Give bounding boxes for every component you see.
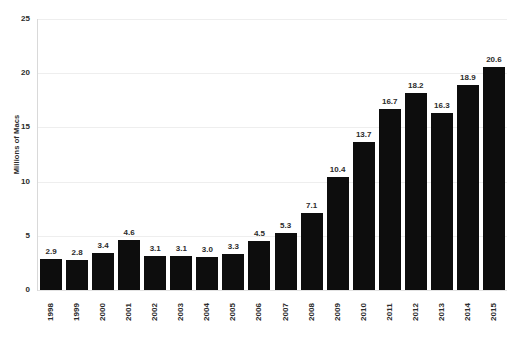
bar[interactable] xyxy=(144,256,166,290)
x-tick-slot: 2014 xyxy=(455,292,481,332)
bar-value-label: 20.6 xyxy=(475,56,511,64)
bar-slot: 10.4 xyxy=(325,19,351,290)
bar[interactable] xyxy=(248,241,270,290)
y-axis-tick-label: 25 xyxy=(8,15,30,23)
x-axis-tick-label: 2007 xyxy=(282,303,290,321)
x-tick-slot: 1998 xyxy=(38,292,64,332)
x-tick-slot: 2005 xyxy=(220,292,246,332)
bar-slot: 13.7 xyxy=(351,19,377,290)
x-axis-tick-label: 2010 xyxy=(360,303,368,321)
y-axis-title: Millions of Macs xyxy=(12,85,21,205)
bar[interactable] xyxy=(66,260,88,290)
x-tick-slot: 2003 xyxy=(168,292,194,332)
bar[interactable] xyxy=(92,253,114,290)
x-axis-tick-label: 2013 xyxy=(438,303,446,321)
x-tick-slot: 2015 xyxy=(481,292,507,332)
bar[interactable] xyxy=(483,67,505,290)
x-axis-tick-label: 2008 xyxy=(308,303,316,321)
x-axis-tick-label: 2001 xyxy=(125,303,133,321)
bar-slot: 3.3 xyxy=(220,19,246,290)
x-axis-tick-label: 2003 xyxy=(177,303,185,321)
bar-slot: 18.2 xyxy=(403,19,429,290)
bar-slot: 4.5 xyxy=(246,19,272,290)
x-axis-tick-label: 1998 xyxy=(47,303,55,321)
y-axis-tick-label: 5 xyxy=(8,232,30,240)
x-axis-tick-label: 2002 xyxy=(151,303,159,321)
y-axis-tick-label: 0 xyxy=(8,286,30,294)
bar[interactable] xyxy=(275,233,297,290)
x-tick-slot: 2006 xyxy=(246,292,272,332)
x-axis-tick-label: 2015 xyxy=(490,303,498,321)
x-tick-slot: 2013 xyxy=(429,292,455,332)
bar[interactable] xyxy=(40,259,62,290)
x-axis-tick-label: 2014 xyxy=(464,303,472,321)
x-axis-tick-label: 2006 xyxy=(255,303,263,321)
bar[interactable] xyxy=(327,177,349,290)
bar[interactable] xyxy=(405,93,427,290)
bar[interactable] xyxy=(379,109,401,290)
bar-slot: 20.6 xyxy=(481,19,507,290)
bar[interactable] xyxy=(196,257,218,290)
x-tick-slot: 2011 xyxy=(377,292,403,332)
gridline xyxy=(38,290,507,291)
plot-area: 2.92.83.44.63.13.13.03.34.55.37.110.413.… xyxy=(38,19,507,290)
bar-chart: Millions of Macs 0510152025 2.92.83.44.6… xyxy=(0,0,511,351)
x-tick-slot: 2010 xyxy=(351,292,377,332)
x-tick-slot: 2007 xyxy=(273,292,299,332)
y-axis-tick-label: 15 xyxy=(8,123,30,131)
bar[interactable] xyxy=(457,85,479,290)
x-axis-tick-label: 2012 xyxy=(412,303,420,321)
bar-slot: 7.1 xyxy=(299,19,325,290)
x-tick-slot: 2002 xyxy=(142,292,168,332)
x-tick-slot: 1999 xyxy=(64,292,90,332)
x-axis-tick-label: 2000 xyxy=(99,303,107,321)
bar-slot: 16.3 xyxy=(429,19,455,290)
x-axis-tick-label: 2005 xyxy=(229,303,237,321)
x-tick-slot: 2004 xyxy=(194,292,220,332)
x-axis-tick-label: 2009 xyxy=(334,303,342,321)
bar-slot: 5.3 xyxy=(273,19,299,290)
x-tick-slot: 2008 xyxy=(299,292,325,332)
bar[interactable] xyxy=(170,256,192,290)
x-tick-slot: 2001 xyxy=(116,292,142,332)
bar[interactable] xyxy=(301,213,323,290)
x-axis-tick-label: 2004 xyxy=(203,303,211,321)
x-axis-tick-label: 1999 xyxy=(73,303,81,321)
y-axis-tick-label: 20 xyxy=(8,69,30,77)
bar-slot: 3.4 xyxy=(90,19,116,290)
x-axis-tick-label: 2011 xyxy=(386,303,394,320)
bar[interactable] xyxy=(353,142,375,291)
bar-slot: 16.7 xyxy=(377,19,403,290)
bar[interactable] xyxy=(222,254,244,290)
bar[interactable] xyxy=(431,113,453,290)
y-axis-tick-label: 10 xyxy=(8,178,30,186)
x-tick-slot: 2012 xyxy=(403,292,429,332)
x-axis-tick-labels: 1998199920002001200220032004200520062007… xyxy=(38,292,507,332)
x-tick-slot: 2009 xyxy=(325,292,351,332)
x-tick-slot: 2000 xyxy=(90,292,116,332)
